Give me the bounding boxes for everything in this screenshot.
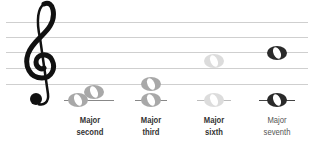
- interval-label: Major third: [126, 114, 177, 138]
- interval-label: Major second: [65, 114, 116, 138]
- whole-note-icon: [266, 45, 288, 61]
- whole-note-icon: [83, 84, 105, 100]
- whole-note-icon: [203, 53, 225, 69]
- interval-label: Major seventh: [252, 114, 303, 138]
- whole-note-icon: [140, 76, 162, 92]
- whole-note-icon: [266, 92, 288, 108]
- treble-clef-icon: [14, 0, 62, 113]
- whole-note-icon: [203, 92, 225, 108]
- whole-note-icon: [140, 92, 162, 108]
- interval-label: Major sixth: [189, 114, 240, 138]
